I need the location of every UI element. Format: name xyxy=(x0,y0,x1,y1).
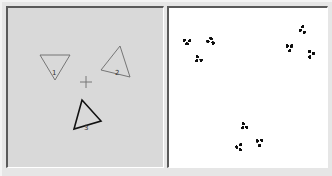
triangle-editor-panel[interactable]: 123 xyxy=(6,6,164,168)
triangle-label: 3 xyxy=(84,124,88,132)
triangle-editor-canvas[interactable]: 123 xyxy=(8,8,164,167)
center-crosshair-icon[interactable] xyxy=(80,76,92,88)
triangle-1[interactable]: 1 xyxy=(40,55,70,80)
triangle-3[interactable]: 3 xyxy=(74,100,101,132)
triangle-2[interactable]: 2 xyxy=(101,46,130,77)
fractal-render-panel xyxy=(167,6,328,168)
fractal-image xyxy=(169,8,328,167)
triangle-label: 1 xyxy=(52,69,56,77)
triangle-label: 2 xyxy=(115,69,119,77)
